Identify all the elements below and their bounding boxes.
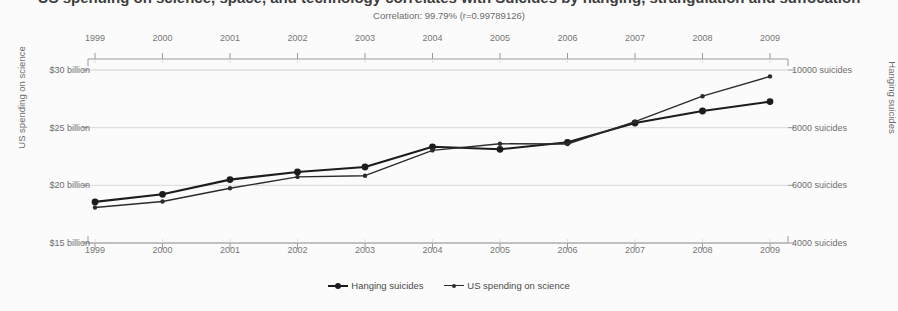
x-axis-tick-label: 2004 xyxy=(410,245,456,255)
data-point xyxy=(699,108,706,115)
y-axis-left-tick-label: $30 billion xyxy=(0,65,90,76)
legend-marker-icon xyxy=(328,281,348,290)
x-axis-tick-label: 2005 xyxy=(477,245,523,255)
data-point xyxy=(295,175,299,179)
x-axis-tick-label: 2005 xyxy=(477,33,523,43)
data-point xyxy=(160,199,164,203)
y-axis-left-title: US spending on science xyxy=(16,33,27,163)
y-axis-right-tick-label: 6000 suicides xyxy=(792,180,898,191)
x-axis-tick-label: 2006 xyxy=(545,245,591,255)
data-point xyxy=(565,142,569,146)
x-axis-tick-label: 2008 xyxy=(680,33,726,43)
x-axis-tick-label: 2002 xyxy=(275,33,321,43)
y-axis-left-tick-label: $20 billion xyxy=(0,180,90,191)
x-axis-labels-top: 1999200020012002200320042005200620072008… xyxy=(0,33,898,45)
y-axis-right-title: Hanging suicides xyxy=(887,33,898,163)
x-axis-tick-label: 1999 xyxy=(72,33,118,43)
legend-label: US spending on science xyxy=(467,280,569,291)
x-axis-tick-label: 2009 xyxy=(747,245,793,255)
legend-item-hanging-suicides[interactable]: Hanging suicides xyxy=(328,279,423,291)
legend-label: Hanging suicides xyxy=(351,280,423,291)
x-axis-tick-label: 2007 xyxy=(612,245,658,255)
x-axis-tick-label: 2001 xyxy=(207,33,253,43)
x-axis-tick-label: 2007 xyxy=(612,33,658,43)
chart-title: US spending on science, space, and techn… xyxy=(0,0,898,7)
data-point xyxy=(497,146,504,153)
data-point xyxy=(228,186,232,190)
data-point xyxy=(498,142,502,146)
data-point xyxy=(767,98,774,105)
data-point xyxy=(294,169,301,176)
x-axis-tick-label: 2004 xyxy=(410,33,456,43)
x-axis-tick-label: 2006 xyxy=(545,33,591,43)
data-point xyxy=(700,94,704,98)
y-axis-right-tick-label: 10000 suicides xyxy=(792,65,898,76)
y-axis-left-tick-label: $15 billion xyxy=(0,238,90,249)
x-axis-tick-label: 2003 xyxy=(342,33,388,43)
legend-marker-icon xyxy=(444,281,464,290)
x-axis-tick-label: 2003 xyxy=(342,245,388,255)
chart-subtitle-correlation: Correlation: 99.79% (r=0.99789126) xyxy=(0,10,898,21)
chart-container: US spending on science, space, and techn… xyxy=(0,0,898,311)
x-axis-tick-label: 2002 xyxy=(275,245,321,255)
data-point xyxy=(362,164,369,171)
data-point xyxy=(93,205,97,209)
y-axis-right-tick-label: 8000 suicides xyxy=(792,123,898,134)
data-point xyxy=(92,199,99,206)
plot-area xyxy=(0,0,898,311)
data-point xyxy=(633,119,637,123)
data-point xyxy=(768,74,772,78)
x-axis-labels-bottom: 1999200020012002200320042005200620072008… xyxy=(0,245,898,257)
data-point xyxy=(227,176,234,183)
x-axis-tick-label: 2001 xyxy=(207,245,253,255)
data-point xyxy=(159,191,166,198)
x-axis-tick-label: 2008 xyxy=(680,245,726,255)
chart-legend: Hanging suicides US spending on science xyxy=(0,279,898,291)
y-axis-right-tick-label: 4000 suicides xyxy=(792,238,898,249)
x-axis-tick-label: 2000 xyxy=(140,33,186,43)
data-point xyxy=(363,174,367,178)
x-axis-tick-label: 2000 xyxy=(140,245,186,255)
legend-item-us-spending[interactable]: US spending on science xyxy=(444,279,569,291)
x-axis-tick-label: 2009 xyxy=(747,33,793,43)
y-axis-left-tick-label: $25 billion xyxy=(0,123,90,134)
data-point xyxy=(430,148,434,152)
